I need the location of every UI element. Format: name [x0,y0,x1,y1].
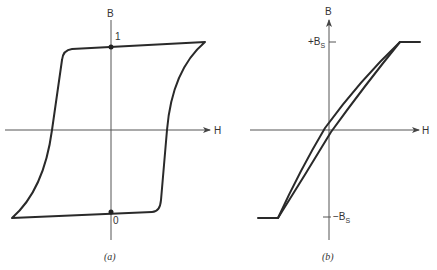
panel-b: H B +BS −BS (b) [250,6,429,263]
point-1-label: 1 [115,31,121,42]
caption-a: (a) [104,251,116,263]
plus-bs-label: +BS [308,36,326,49]
point-0-marker [109,210,114,215]
h-axis-label: H [422,125,429,136]
b-axis-label: B [107,8,114,19]
point-0-label: 0 [113,215,119,226]
panel-a: H B 1 0 (a) [5,8,221,263]
hysteresis-diagram: H B 1 0 (a) H B +BS −BS (b) [0,0,437,270]
minus-bs-label: −BS [333,211,351,224]
caption-b: (b) [322,251,334,263]
point-1-marker [109,45,114,50]
h-axis-label: H [214,125,221,136]
b-axis-label: B [325,6,332,17]
